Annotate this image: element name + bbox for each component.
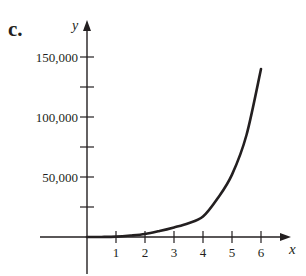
x-tick-label: 3 (171, 245, 178, 260)
y-axis-label: y (70, 18, 79, 33)
plot-area: xy12345650,000100,000150,000 (0, 0, 306, 276)
x-tick-label: 1 (113, 245, 120, 260)
data-curve (87, 69, 261, 237)
x-tick-label: 2 (142, 245, 149, 260)
x-tick-label: 6 (258, 245, 265, 260)
y-tick-label: 50,000 (42, 170, 78, 185)
y-tick-label: 100,000 (36, 110, 78, 125)
x-axis-label: x (288, 241, 296, 257)
x-axis-arrow-icon (280, 233, 291, 241)
part-label: c. (8, 17, 23, 42)
exponential-growth-chart: c. xy12345650,000100,000150,000 (0, 0, 306, 276)
y-tick-label: 150,000 (36, 50, 78, 65)
x-tick-label: 4 (200, 245, 207, 260)
x-tick-label: 5 (229, 245, 236, 260)
y-axis-arrow-icon (83, 20, 91, 31)
